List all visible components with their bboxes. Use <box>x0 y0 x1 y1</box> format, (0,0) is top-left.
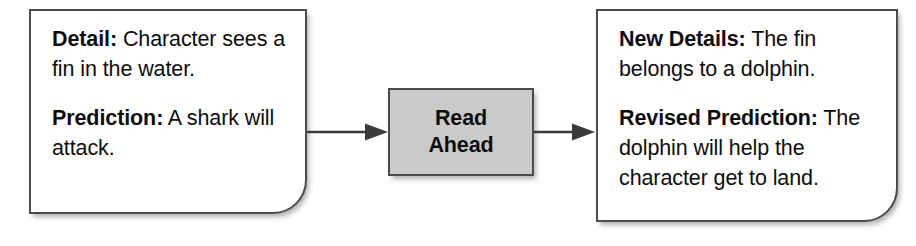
new-details-paragraph: New Details: The fin belongs to a dolphi… <box>619 24 882 84</box>
detail-label: Detail: <box>52 27 117 51</box>
new-details-label: New Details: <box>619 27 746 51</box>
prediction-label: Prediction: <box>52 106 163 130</box>
diagram-canvas: Detail: Character sees a fin in the wate… <box>0 0 916 246</box>
detail-box: Detail: Character sees a fin in the wate… <box>29 9 307 214</box>
detail-paragraph: Detail: Character sees a fin in the wate… <box>52 24 291 84</box>
edge-detail-to-read-ahead <box>307 119 389 145</box>
prediction-paragraph: Prediction: A shark will attack. <box>52 103 291 163</box>
read-ahead-line-2: Ahead <box>428 132 493 159</box>
edge-read-ahead-to-revised <box>534 119 596 145</box>
detail-box-content: Detail: Character sees a fin in the wate… <box>52 24 291 163</box>
arrow-right-icon <box>307 119 389 145</box>
revised-prediction-label: Revised Prediction: <box>619 106 818 130</box>
read-ahead-box: Read Ahead <box>388 88 534 176</box>
read-ahead-line-1: Read <box>435 105 487 132</box>
revised-box-content: New Details: The fin belongs to a dolphi… <box>619 24 882 193</box>
arrow-right-icon <box>534 119 596 145</box>
revised-prediction-paragraph: Revised Prediction: The dolphin will hel… <box>619 103 882 193</box>
revised-box: New Details: The fin belongs to a dolphi… <box>596 9 898 222</box>
